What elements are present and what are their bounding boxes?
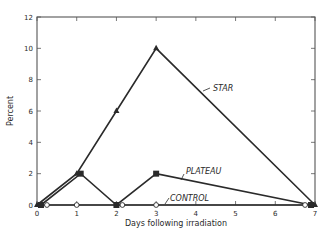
triangle-marker-icon bbox=[153, 45, 159, 51]
plot-border bbox=[37, 17, 315, 205]
x-tick-label: 6 bbox=[273, 210, 278, 218]
x-tick-label: 7 bbox=[313, 210, 317, 218]
y-tick-label: 2 bbox=[29, 170, 33, 178]
line-chart: 02468101201234567 STARPLATEAUCONTROL Day… bbox=[0, 0, 330, 240]
y-axis-label: Percent bbox=[6, 96, 15, 126]
circle-marker-icon bbox=[154, 203, 159, 208]
star-series-label: STAR bbox=[213, 84, 233, 93]
star-line bbox=[37, 48, 315, 205]
square-marker-icon bbox=[153, 171, 159, 177]
y-tick-label: 6 bbox=[29, 108, 34, 116]
x-tick-label: 0 bbox=[35, 210, 39, 218]
circle-marker-icon bbox=[74, 203, 79, 208]
axis-ticks bbox=[37, 17, 315, 205]
data-series bbox=[34, 45, 318, 208]
x-axis-label: Days following irradiation bbox=[125, 219, 227, 228]
plot-frame bbox=[37, 17, 315, 205]
x-tick-label: 2 bbox=[114, 210, 118, 218]
x-tick-label: 5 bbox=[233, 210, 237, 218]
series-star bbox=[34, 45, 318, 207]
x-tick-label: 1 bbox=[74, 210, 78, 218]
y-tick-label: 12 bbox=[24, 14, 33, 22]
circle-marker-icon bbox=[120, 203, 125, 208]
star-leader-line bbox=[203, 88, 210, 91]
square-marker-icon bbox=[308, 202, 314, 208]
y-tick-label: 0 bbox=[29, 202, 33, 210]
control-series-label: CONTROL bbox=[170, 194, 209, 203]
x-tick-label: 4 bbox=[194, 210, 199, 218]
circle-marker-icon bbox=[45, 203, 50, 208]
square-marker-icon bbox=[38, 202, 44, 208]
control-leader-line bbox=[165, 198, 169, 204]
plateau-series-label: PLATEAU bbox=[186, 167, 222, 176]
series-control bbox=[45, 203, 308, 208]
circle-marker-icon bbox=[303, 203, 308, 208]
y-tick-label: 8 bbox=[29, 76, 33, 84]
x-tick-label: 3 bbox=[154, 210, 158, 218]
axis-tick-labels: 02468101201234567 bbox=[24, 14, 317, 219]
series-labels: STARPLATEAUCONTROL bbox=[165, 84, 233, 204]
y-tick-label: 4 bbox=[29, 139, 34, 147]
square-marker-icon bbox=[78, 171, 84, 177]
y-tick-label: 10 bbox=[24, 45, 33, 53]
